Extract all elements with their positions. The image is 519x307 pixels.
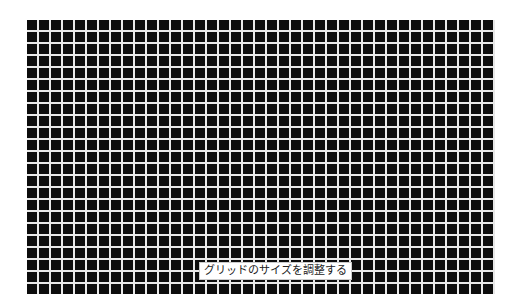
grid-canvas[interactable] — [27, 20, 495, 294]
adjust-grid-size-label[interactable]: グリッドのサイズを調整する — [199, 262, 352, 280]
